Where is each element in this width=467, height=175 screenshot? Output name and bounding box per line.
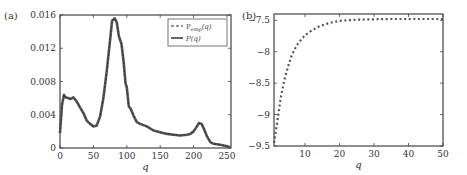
y-tick-label: 0 bbox=[50, 143, 56, 153]
x-tick-label: 30 bbox=[368, 149, 380, 159]
y-tick-label: 0.004 bbox=[30, 110, 56, 120]
y-tick-label: −9 bbox=[257, 110, 271, 120]
x-tick-label: 100 bbox=[118, 151, 135, 161]
panel-b: 1020304050−9.5−9−8.5−8−7.5q(b) bbox=[242, 10, 449, 170]
panel-label: (b) bbox=[242, 10, 256, 21]
legend: Pemp(q)P(q) bbox=[168, 19, 227, 46]
x-tick-label: 0 bbox=[57, 151, 63, 161]
x-tick-label: 10 bbox=[299, 149, 311, 159]
x-tick-label: 250 bbox=[218, 151, 235, 161]
x-tick-label: 50 bbox=[437, 149, 449, 159]
y-tick-label: −9.5 bbox=[248, 141, 270, 151]
plot-frame bbox=[274, 14, 443, 146]
x-axis-label: q bbox=[142, 161, 148, 172]
legend-label-model: P(q) bbox=[185, 35, 201, 43]
panel-a: 05010015020025000.0040.0080.0120.016q(a)… bbox=[4, 10, 236, 172]
figure: 05010015020025000.0040.0080.0120.016q(a)… bbox=[0, 0, 467, 175]
y-tick-label: 0.016 bbox=[30, 10, 56, 20]
y-tick-label: −8 bbox=[257, 47, 271, 57]
y-tick-label: −8.5 bbox=[248, 78, 270, 88]
y-tick-label: 0.012 bbox=[30, 43, 56, 53]
x-tick-label: 150 bbox=[152, 151, 169, 161]
x-axis-label: q bbox=[355, 159, 361, 170]
panel-label: (a) bbox=[4, 10, 18, 21]
x-tick-label: 200 bbox=[185, 151, 202, 161]
y-tick-label: 0.008 bbox=[30, 77, 56, 87]
x-tick-label: 50 bbox=[88, 151, 100, 161]
x-tick-label: 40 bbox=[403, 149, 415, 159]
x-tick-label: 20 bbox=[334, 149, 346, 159]
series-line-dotted bbox=[274, 19, 443, 143]
